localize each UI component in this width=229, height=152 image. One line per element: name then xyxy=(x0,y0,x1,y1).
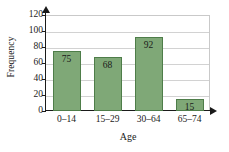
bar-value-label: 68 xyxy=(95,60,121,70)
y-axis-tick-mark xyxy=(42,47,46,48)
y-axis-tick-label: 40 xyxy=(13,74,43,84)
y-axis-tick-label: 20 xyxy=(13,90,43,100)
bar: 68 xyxy=(94,57,122,111)
gridline xyxy=(46,32,209,33)
y-axis-tick-mark xyxy=(42,111,46,112)
y-axis-tick-mark xyxy=(42,15,46,16)
bar: 75 xyxy=(53,51,81,111)
bar-value-label: 92 xyxy=(136,40,162,50)
frequency-by-age-bar-chart: Frequency 020406080100120 75689215 0–141… xyxy=(0,0,229,152)
x-axis-tick-label: 65–74 xyxy=(169,114,210,124)
x-axis-arrowhead-icon xyxy=(210,107,217,115)
y-axis-tick-label: 100 xyxy=(13,26,43,36)
bar-value-label: 75 xyxy=(54,54,80,64)
x-axis-tick-label: 30–64 xyxy=(128,114,169,124)
y-axis-tick-mark xyxy=(42,63,46,64)
y-axis-line xyxy=(45,12,46,111)
bar: 15 xyxy=(176,99,204,111)
y-axis-tick-mark xyxy=(42,95,46,96)
x-axis-title: Age xyxy=(46,131,210,142)
y-axis-tick-label: 60 xyxy=(13,58,43,68)
y-axis-tick-label: 0 xyxy=(13,106,43,116)
gridline xyxy=(46,48,209,49)
bar-value-label: 15 xyxy=(177,102,203,112)
y-axis-tick-label: 80 xyxy=(13,42,43,52)
x-axis-tick-label: 0–14 xyxy=(46,114,87,124)
bar: 92 xyxy=(135,37,163,111)
y-axis-tick-mark xyxy=(42,31,46,32)
x-axis-tick-label: 15–29 xyxy=(87,114,128,124)
y-axis-tick-label: 120 xyxy=(13,10,43,20)
y-axis-tick-mark xyxy=(42,79,46,80)
